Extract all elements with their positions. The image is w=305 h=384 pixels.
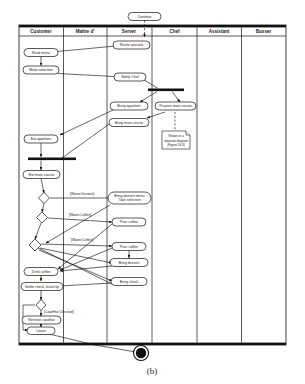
guard-wants-coffee-2: [Wants Coffee] [71, 238, 93, 242]
lane-header-chef: Chef [169, 29, 180, 34]
node-pour-coffee-2-label: Pour coffee [120, 245, 138, 249]
node-bring-appetizer-label: Bring appetizer [117, 104, 141, 108]
node-make-selection-label: Make selection [29, 68, 52, 72]
node-eat-appetizer: Eat appetizer [24, 135, 58, 143]
decision-node-dessert [39, 193, 50, 204]
diagram-frame [19, 25, 286, 345]
node-bring-main-course: Bring main course [109, 119, 149, 127]
edge-decision3-wants-coffee [41, 244, 112, 246]
guard-wants-coffee-1: [Wants Coffee] [69, 213, 91, 217]
decision-node-coffee-2 [29, 239, 41, 251]
node-recite-specials: Recite specials [113, 41, 150, 49]
guard-coat-checked: [Coat/Hat Checked] [44, 310, 74, 314]
lane-header-assistant: Assistant [209, 29, 230, 34]
figure-caption: (b) [147, 366, 158, 376]
edge-decision2-wants-coffee [48, 218, 112, 222]
node-retrieve-coat: Retrieve coat/hat [22, 316, 61, 324]
node-bring-dessert-label: Bring dessert [119, 261, 140, 265]
node-eat-main-course-label: Eat main course [29, 173, 54, 177]
lane-header-busser: Busser [256, 29, 272, 34]
node-pour-coffee-2: Pour coffee [112, 243, 146, 251]
note-separate-diagram: Shown in a separate diagram (Figure 16.3… [162, 131, 190, 149]
note-line-3: (Figure 16.3) [167, 143, 185, 147]
guard-wants-dessert: [Wants Dessert] [70, 192, 94, 196]
edge-decision2-to-decision3 [35, 223, 41, 239]
node-bring-main-course-label: Bring main course [115, 121, 143, 125]
activity-diagram-figure: Continue Customer Maître d' Server Chef … [0, 0, 305, 384]
edge-decision3-to-bring-dessert [40, 248, 112, 263]
frame-top-band [19, 25, 286, 27]
edge-bring-appetizer-to-eat-appetizer [60, 110, 113, 135]
node-bring-appetizer: Bring appetizer [110, 102, 148, 110]
node-bring-dessert-menu: Bring dessert menu Take selection [108, 192, 151, 204]
node-leave-label: Leave [36, 329, 46, 333]
edge-fork-to-prepare-main-course [172, 92, 180, 103]
node-bring-dessert: Bring dessert [110, 259, 148, 267]
lane-header-server: Server [122, 29, 137, 34]
decision-node-coat-check [36, 300, 46, 311]
decision-node-coffee-1 [37, 212, 48, 223]
node-bring-dessert-menu-label2: Take selection [118, 198, 140, 202]
node-recite-specials-label: Recite specials [120, 43, 144, 47]
node-prepare-main-course-label: Prepare main course [159, 104, 192, 108]
edge-fork-to-bring-appetizer [140, 92, 157, 103]
node-settle-check-label: Settle check, leave tip [25, 285, 59, 289]
edge-decision1-to-decision2 [42, 203, 44, 212]
edge-make-selection-to-notify-chef [58, 74, 123, 78]
node-retrieve-coat-label: Retrieve coat/hat [28, 318, 54, 322]
edge-eat-main-to-decision1 [41, 179, 44, 194]
node-bring-check-label: Bring check [120, 280, 139, 284]
join-bar-lower [28, 158, 76, 161]
node-prepare-main-course: Prepare main course [155, 102, 196, 110]
node-read-menu-label: Read menu [32, 51, 50, 55]
final-node [134, 346, 149, 361]
node-notify-chef: Notify Chef [114, 73, 146, 81]
node-eat-main-course: Eat main course [23, 171, 60, 179]
node-pour-coffee-1-label: Pour coffee [120, 220, 138, 224]
edge-bring-check-to-settle-check [60, 283, 112, 286]
uml-activity-diagram: Continue Customer Maître d' Server Chef … [0, 0, 305, 384]
lane-header-maitre-d: Maître d' [76, 29, 95, 34]
lane-header-customer: Customer [30, 29, 52, 34]
node-make-selection: Make selection [23, 66, 59, 74]
node-drink-coffee: Drink coffee [24, 268, 58, 276]
node-leave: Leave [27, 327, 55, 335]
node-read-menu: Read menu [24, 49, 58, 57]
frame-bottom-band [19, 343, 286, 345]
node-pour-coffee-1: Pour coffee [112, 218, 146, 226]
node-bring-check: Bring check [111, 278, 147, 286]
node-continue-label: Continue [137, 15, 151, 19]
edge-bring-main-course-to-join [62, 122, 112, 158]
edge-bring-dessert-menu-to-decision3 [46, 205, 110, 243]
node-notify-chef-label: Notify Chef [121, 75, 138, 79]
node-settle-check: Settle check, leave tip [21, 283, 63, 291]
node-continue: Continue [128, 13, 161, 21]
node-eat-appetizer-label: Eat appetizer [31, 137, 52, 141]
edge-prepare-to-bring-main-course [147, 112, 165, 118]
node-drink-coffee-label: Drink coffee [32, 270, 51, 274]
fork-bar-upper [148, 89, 184, 92]
